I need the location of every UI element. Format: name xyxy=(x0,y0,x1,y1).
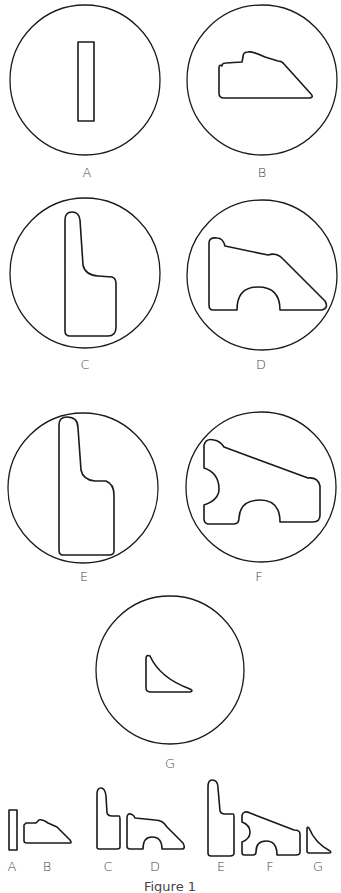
mini-profile-a xyxy=(9,810,17,850)
label-e: E xyxy=(80,570,88,583)
summary-label-g: G xyxy=(313,860,323,873)
panel-c xyxy=(10,198,160,348)
circle-c xyxy=(10,198,160,348)
panel-e xyxy=(8,413,158,563)
figure-caption: Figure 1 xyxy=(144,880,196,893)
summary-label-f: F xyxy=(266,860,273,873)
mini-profile-b xyxy=(24,820,71,843)
label-f: F xyxy=(255,570,262,583)
mini-profile-d xyxy=(127,814,184,849)
panel-g xyxy=(96,596,244,744)
panel-a xyxy=(10,5,160,155)
mini-profile-g xyxy=(307,827,331,853)
summary-label-d: D xyxy=(150,860,160,873)
label-a: A xyxy=(83,166,92,179)
mini-profile-c xyxy=(97,788,120,849)
profile-b xyxy=(219,52,312,98)
profile-e xyxy=(59,417,114,555)
circle-g xyxy=(96,596,244,744)
summary-label-b: B xyxy=(43,860,52,873)
label-d: D xyxy=(256,358,266,371)
panel-d xyxy=(187,200,337,350)
panel-f xyxy=(186,412,336,562)
mini-profile-e xyxy=(208,780,234,856)
profile-g xyxy=(146,655,192,692)
circle-b xyxy=(187,5,337,155)
label-b: B xyxy=(258,166,267,179)
label-c: C xyxy=(80,358,89,371)
summary-label-e: E xyxy=(217,860,225,873)
circle-a xyxy=(10,5,160,155)
circle-e xyxy=(8,413,158,563)
profile-a xyxy=(78,42,94,121)
summary-label-c: C xyxy=(103,860,112,873)
summary-row xyxy=(9,780,331,856)
panel-b xyxy=(187,5,337,155)
circle-f xyxy=(186,412,336,562)
profile-d xyxy=(209,238,326,310)
summary-label-a: A xyxy=(8,860,17,873)
label-g: G xyxy=(165,757,175,770)
profile-c xyxy=(65,212,116,336)
profile-f xyxy=(204,440,320,524)
mini-profile-f xyxy=(242,812,300,855)
